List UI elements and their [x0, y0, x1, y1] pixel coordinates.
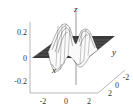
y-axis-label: y	[111, 47, 116, 57]
x-tick-2: 2	[87, 97, 91, 106]
x-tick-neg2: -2	[40, 97, 47, 106]
x-tick-0: 0	[64, 97, 68, 106]
z-tick-0.2: 0.2	[17, 28, 27, 37]
z-tick-0: 0	[23, 54, 27, 63]
z-axis-label: z	[73, 4, 78, 14]
y-tick-neg2: -2	[123, 73, 130, 82]
z-tick-neg0.2: -0.2	[14, 77, 27, 86]
y-tick-0: 0	[115, 81, 119, 90]
surface-plot: 0.2 0 -0.2 -2 0 2 -2 0 2 z	[0, 0, 133, 112]
y-tick-2: 2	[108, 89, 112, 98]
x-axis-label: x	[51, 65, 56, 75]
